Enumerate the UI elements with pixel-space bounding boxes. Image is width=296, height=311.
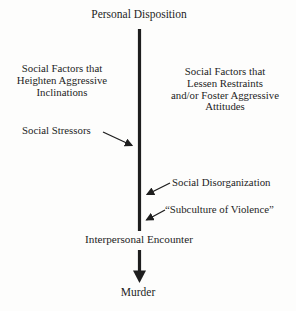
interpersonal-encounter-label: Interpersonal Encounter [39,233,239,245]
murder-arrowhead-icon [133,271,146,284]
diagram-lines [0,0,296,311]
causal-flow-diagram: Personal Disposition Social Factors that… [0,0,296,311]
social-disorganization-arrow-icon [147,183,170,195]
social-stressors-arrow-icon [103,132,132,146]
subculture-arrow-icon [147,210,166,220]
right-factors-label: Social Factors that Lessen Restraints an… [155,66,295,113]
murder-label: Murder [38,286,238,298]
left-factors-label: Social Factors that Heighten Aggressive … [0,63,124,98]
personal-disposition-label: Personal Disposition [39,7,239,21]
social-disorganization-label: Social Disorganization [172,176,270,188]
subculture-of-violence-label: “Subculture of Violence” [165,203,274,215]
social-stressors-label: Social Stressors [22,124,91,136]
